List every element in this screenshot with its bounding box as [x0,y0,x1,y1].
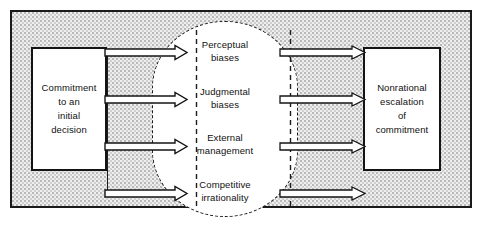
inbound-arrow-2 [105,92,191,108]
outbound-arrow-2 [280,93,368,107]
figure-container: Commitment to an initial decision Nonrat… [0,0,488,240]
inbound-arrow-3 [105,139,191,155]
outbound-arrow-4 [280,187,368,201]
inbound-arrow-1 [105,45,191,61]
outbound-arrow-1 [280,46,368,60]
inbound-arrow-4 [105,186,191,202]
outbound-arrow-3 [280,140,368,154]
